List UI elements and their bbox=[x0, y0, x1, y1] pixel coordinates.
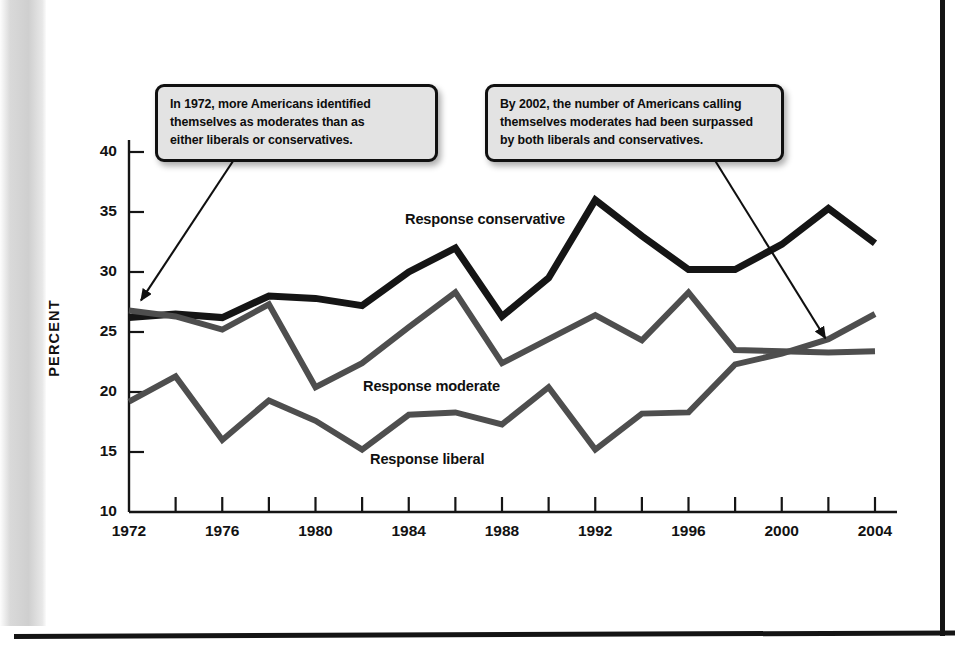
series-label-liberal: Response liberal bbox=[370, 451, 484, 467]
annotation-leader-1972 bbox=[141, 146, 243, 300]
x-axis-tick-label: 1988 bbox=[467, 522, 537, 540]
y-axis-title: PERCENT bbox=[46, 278, 62, 398]
series-label-moderate: Response moderate bbox=[363, 378, 500, 394]
callout-line: either liberals or conservatives. bbox=[170, 132, 424, 150]
annotation-leader-2002 bbox=[706, 146, 825, 338]
x-axis-tick-label: 1996 bbox=[654, 522, 724, 540]
annotation-callout-2002: By 2002, the number of Americans calling… bbox=[485, 84, 784, 162]
y-axis-tick-label: 40 bbox=[77, 142, 117, 160]
x-axis-tick-label: 1992 bbox=[560, 522, 630, 540]
callout-line: themselves moderates had been surpassed bbox=[500, 114, 770, 132]
series-line-liberal bbox=[129, 314, 875, 450]
callout-line: themselves as moderates than as bbox=[170, 114, 424, 132]
x-axis-tick-label: 1972 bbox=[94, 522, 164, 540]
callout-line: By 2002, the number of Americans calling bbox=[500, 96, 770, 114]
page-canvas: PERCENT Response conservative Response m… bbox=[0, 0, 959, 647]
x-axis-tick-label: 1984 bbox=[374, 522, 444, 540]
y-axis-tick-label: 30 bbox=[77, 262, 117, 280]
series-label-conservative: Response conservative bbox=[405, 211, 565, 227]
y-axis-tick-label: 15 bbox=[77, 442, 117, 460]
callout-line: In 1972, more Americans identified bbox=[170, 96, 424, 114]
x-axis-tick-label: 1980 bbox=[281, 522, 351, 540]
x-axis-tick-label: 2004 bbox=[840, 522, 910, 540]
y-axis-tick-label: 25 bbox=[77, 322, 117, 340]
x-axis-tick-label: 2000 bbox=[747, 522, 817, 540]
y-axis-tick-label: 35 bbox=[77, 202, 117, 220]
y-axis-tick-label: 10 bbox=[77, 502, 117, 520]
line-chart: PERCENT Response conservative Response m… bbox=[0, 0, 959, 647]
chart-plot-area bbox=[0, 0, 959, 647]
callout-line: by both liberals and conservatives. bbox=[500, 132, 770, 150]
x-axis-tick-label: 1976 bbox=[187, 522, 257, 540]
annotation-callout-1972: In 1972, more Americans identified thems… bbox=[155, 84, 438, 162]
y-axis-tick-label: 20 bbox=[77, 382, 117, 400]
